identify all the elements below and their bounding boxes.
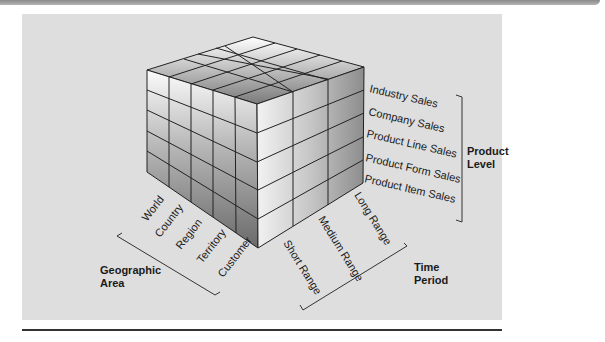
time-period-title-line1: Time (414, 261, 439, 273)
product-level-labels: Industry Sales Company Sales Product Lin… (364, 82, 463, 205)
product-level-title-line1: Product (467, 145, 509, 157)
forecast-cube-diagram: Industry Sales Company Sales Product Lin… (0, 0, 605, 342)
cube (147, 37, 364, 248)
bottom-rule (22, 329, 502, 331)
label-region: Region (173, 216, 204, 251)
label-medium-range: Medium Range (316, 214, 366, 284)
label-short-range: Short Range (281, 238, 324, 297)
product-level-bracket (456, 95, 462, 222)
label-industry-sales: Industry Sales (369, 82, 440, 109)
product-level-title-line2: Level (467, 158, 495, 170)
geographic-area-title-line1: Geographic (100, 264, 161, 276)
label-territory: Territory (194, 226, 228, 265)
geographic-area-title-line2: Area (100, 277, 125, 289)
time-period-title-line2: Period (414, 274, 448, 286)
label-long-range: Long Range (352, 190, 394, 247)
